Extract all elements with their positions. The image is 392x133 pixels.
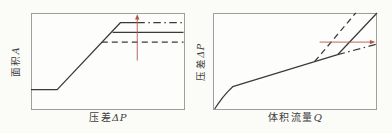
right-xaxis-label: 体积流量Q (213, 112, 377, 124)
left-ylabel-text: 面积 (10, 54, 21, 77)
left-xlabel-text: 压差 (89, 112, 112, 123)
left-chart (31, 13, 185, 110)
left-plot-border (32, 14, 185, 110)
left-yaxis-label: 面积A (1, 13, 29, 110)
left-xaxis-label: 压差ΔP (31, 112, 185, 124)
left-chart-canvas (31, 13, 185, 110)
right-ylabel-variable: ΔP (195, 43, 206, 57)
right-yaxis-label: 压差ΔP (186, 13, 214, 110)
dual-characteristic-diagram: 面积A 压差ΔP 压差ΔP 体积流量Q (0, 0, 392, 133)
right-chart-canvas (213, 13, 377, 110)
right-chart (213, 13, 377, 110)
right-xlabel-variable: Q (314, 112, 323, 123)
right-xlabel-text: 体积流量 (268, 112, 314, 123)
right-plot-border (214, 14, 377, 110)
left-xlabel-variable: ΔP (112, 112, 127, 123)
left-ylabel-variable: A (10, 46, 21, 53)
right-ylabel-text: 压差 (195, 57, 206, 80)
